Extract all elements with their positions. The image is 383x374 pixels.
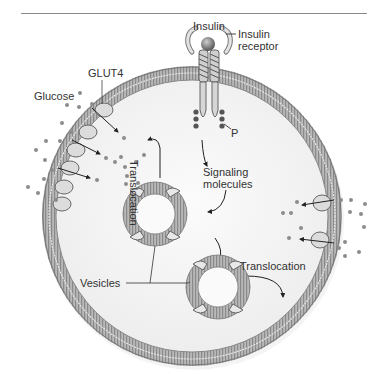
glucose-label: Glucose xyxy=(34,90,74,102)
signaling-molecules-label-line1: Signaling xyxy=(203,166,248,178)
translocation-horizontal-label: Translocation xyxy=(240,260,306,272)
translocation-vertical-label: Translocation xyxy=(128,160,140,226)
insulin-molecule xyxy=(201,37,215,51)
insulin-receptor-label-line1: Insulin xyxy=(238,28,270,40)
vesicles-label: Vesicles xyxy=(80,277,120,289)
plasma-membrane xyxy=(43,67,341,365)
glut4-label: GLUT4 xyxy=(88,67,123,79)
insulin-receptor-label-line2: receptor xyxy=(238,40,278,52)
phosphate-label: P xyxy=(231,127,238,139)
cell-diagram xyxy=(0,0,383,374)
signaling-molecules-label-line2: molecules xyxy=(203,178,253,190)
insulin-label: Insulin xyxy=(193,20,225,32)
